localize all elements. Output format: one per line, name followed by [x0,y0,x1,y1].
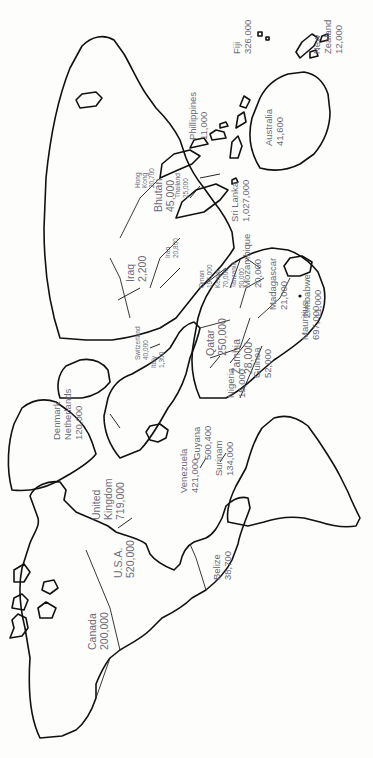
label-mauritius: Mauritius697,000 [299,301,321,340]
asia-outline [44,37,234,340]
label-iraq: Iraq2,200 [124,256,148,282]
label-thailand: Thailand25,000 [174,173,189,198]
label-oman: Oman197,000 [198,264,213,288]
fiji-outline [258,32,269,40]
japan-outline [76,92,102,108]
label-madagascar: Madagascar21,000 [267,258,289,310]
madagascar-outline [284,256,312,276]
label-sri-lanka: Sri Lanka1,027,000 [229,180,251,222]
world-map-canvas: Canada200,000 U.S.A.520,000 Belize38,700… [0,0,373,758]
label-denmark-netherlands: DenmarkNetherlands120,000 [51,389,84,440]
label-united-kingdom: UnitedKingdom719,000 [90,478,126,520]
europe-outline [104,322,200,458]
label-zambia: Zambia28,000 [230,339,254,374]
label-australia: Australia41,600 [263,108,285,146]
label-switzerland: Switzerland40,000 [134,326,149,360]
label-bhutan: Bhutan45,000 [152,179,176,212]
label-usa: U.S.A.520,000 [112,540,136,578]
label-guinea: Guinea52,000 [251,347,273,378]
philippines-outline [210,122,228,140]
label-guyana: Guyana500,400 [191,426,213,460]
north-america-outline [20,482,250,738]
label-qatar: Qatar250,000 [204,318,228,356]
label-new-zealand: NewZealand12,000 [311,20,344,54]
label-iran: Iran20,800 [164,238,179,258]
label-surinam: Surinam134,000 [213,441,235,476]
label-philippines: Phillippines11,000 [187,92,209,140]
south-america-outline [227,416,360,526]
southeast-asia-outline [160,138,208,178]
label-kenya: Kenya70,000 [214,268,229,288]
world-map: Canada200,000 U.S.A.520,000 Belize38,700… [0,0,373,758]
indonesia-outline [230,96,250,158]
label-fiji: Fiji326,000 [231,20,253,54]
label-hong-kong: HongKong20,700 [134,168,155,188]
map-page: Canada200,000 U.S.A.520,000 Belize38,700… [0,0,373,758]
label-belize: Belize38,700 [211,551,233,580]
label-mozambique: Mozambique20,000 [241,234,263,288]
us-mexico-border [190,544,206,590]
label-italy: Italy1,300 [150,351,165,368]
arctic-islands [10,564,58,638]
label-canada: Canada200,000 [86,612,110,650]
